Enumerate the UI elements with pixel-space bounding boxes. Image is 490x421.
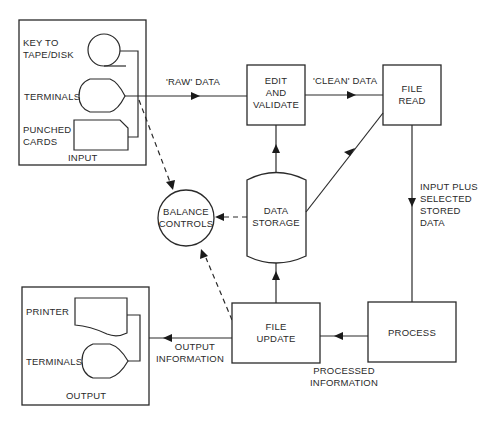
output-terminals-label: TERMINALS xyxy=(26,356,82,367)
clean-data-edge: 'CLEAN' DATA xyxy=(305,75,383,99)
svg-text:EDIT: EDIT xyxy=(265,75,287,86)
svg-text:AND: AND xyxy=(266,87,287,98)
output-box xyxy=(22,287,149,405)
svg-text:INPUT PLUS: INPUT PLUS xyxy=(420,181,478,192)
key-to-label: KEY TO xyxy=(23,37,59,48)
raw-data-label: 'RAW' DATA xyxy=(166,76,220,87)
svg-text:INFORMATION: INFORMATION xyxy=(310,377,378,388)
svg-text:DATA: DATA xyxy=(264,205,289,216)
input-terminals-label: TERMINALS xyxy=(24,91,80,102)
clean-data-label: 'CLEAN' DATA xyxy=(313,75,378,86)
svg-text:DATA: DATA xyxy=(420,217,445,228)
input-label: INPUT xyxy=(68,152,98,163)
output-label: OUTPUT xyxy=(66,390,106,401)
svg-text:PROCESS: PROCESS xyxy=(388,327,436,338)
edit-validate-node: EDIT AND VALIDATE xyxy=(247,65,305,125)
svg-text:READ: READ xyxy=(398,95,425,106)
output-info-edge: OUTPUT INFORMATION xyxy=(140,334,232,364)
flowchart-canvas: KEY TO TAPE/DISK TERMINALS PUNCHED CARDS… xyxy=(0,0,490,421)
data-storage-node: DATA STORAGE xyxy=(247,173,306,264)
tape-disk-label: TAPE/DISK xyxy=(23,49,74,60)
svg-text:STORAGE: STORAGE xyxy=(252,217,300,228)
update-to-storage-edge xyxy=(272,263,280,303)
file-update-node: FILE UPDATE xyxy=(232,303,320,363)
svg-text:UPDATE: UPDATE xyxy=(256,333,295,344)
punched-label: PUNCHED xyxy=(23,124,71,135)
svg-text:STORED: STORED xyxy=(420,205,461,216)
update-to-balance-edge xyxy=(200,249,232,320)
cards-label: CARDS xyxy=(23,136,57,147)
output-group: PRINTER TERMINALS OUTPUT xyxy=(22,287,149,405)
svg-text:PROCESSED: PROCESSED xyxy=(313,365,374,376)
svg-text:CONTROLS: CONTROLS xyxy=(159,218,213,229)
balance-controls-node: BALANCE CONTROLS xyxy=(158,190,214,246)
svg-text:FILE: FILE xyxy=(266,321,287,332)
storage-to-balance-edge xyxy=(215,213,247,221)
svg-text:SELECTED: SELECTED xyxy=(420,193,472,204)
storage-to-file-read-edge xyxy=(306,113,383,212)
svg-text:BALANCE: BALANCE xyxy=(163,206,209,217)
svg-text:INFORMATION: INFORMATION xyxy=(156,353,224,364)
input-group: KEY TO TAPE/DISK TERMINALS PUNCHED CARDS… xyxy=(19,20,146,165)
storage-to-edit-edge xyxy=(272,125,280,173)
svg-text:VALIDATE: VALIDATE xyxy=(253,99,299,110)
input-plus-edge: INPUT PLUS SELECTED STORED DATA xyxy=(408,125,478,302)
svg-text:FILE: FILE xyxy=(402,83,423,94)
process-node: PROCESS xyxy=(368,302,456,362)
svg-text:OUTPUT: OUTPUT xyxy=(175,341,215,352)
printer-label: PRINTER xyxy=(26,306,69,317)
file-read-node: FILE READ xyxy=(383,65,441,125)
